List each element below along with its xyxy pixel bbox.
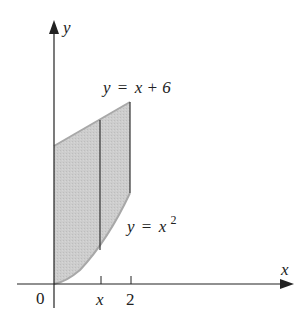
origin-label: 0 (36, 289, 45, 308)
upper-curve-label: y = x + 6 (101, 78, 171, 97)
x-axis-label: x (280, 260, 289, 279)
tick-label-2: 2 (126, 290, 135, 309)
lower-curve-label: y = x 2 (125, 213, 176, 236)
region-diagram: y x 0 x 2 y = x + 6 y = x 2 (0, 0, 306, 323)
x-axis-arrow-icon (280, 279, 294, 289)
tick-label-x: x (95, 290, 104, 309)
y-axis-arrow-icon (49, 20, 59, 34)
y-axis-label: y (61, 18, 71, 37)
